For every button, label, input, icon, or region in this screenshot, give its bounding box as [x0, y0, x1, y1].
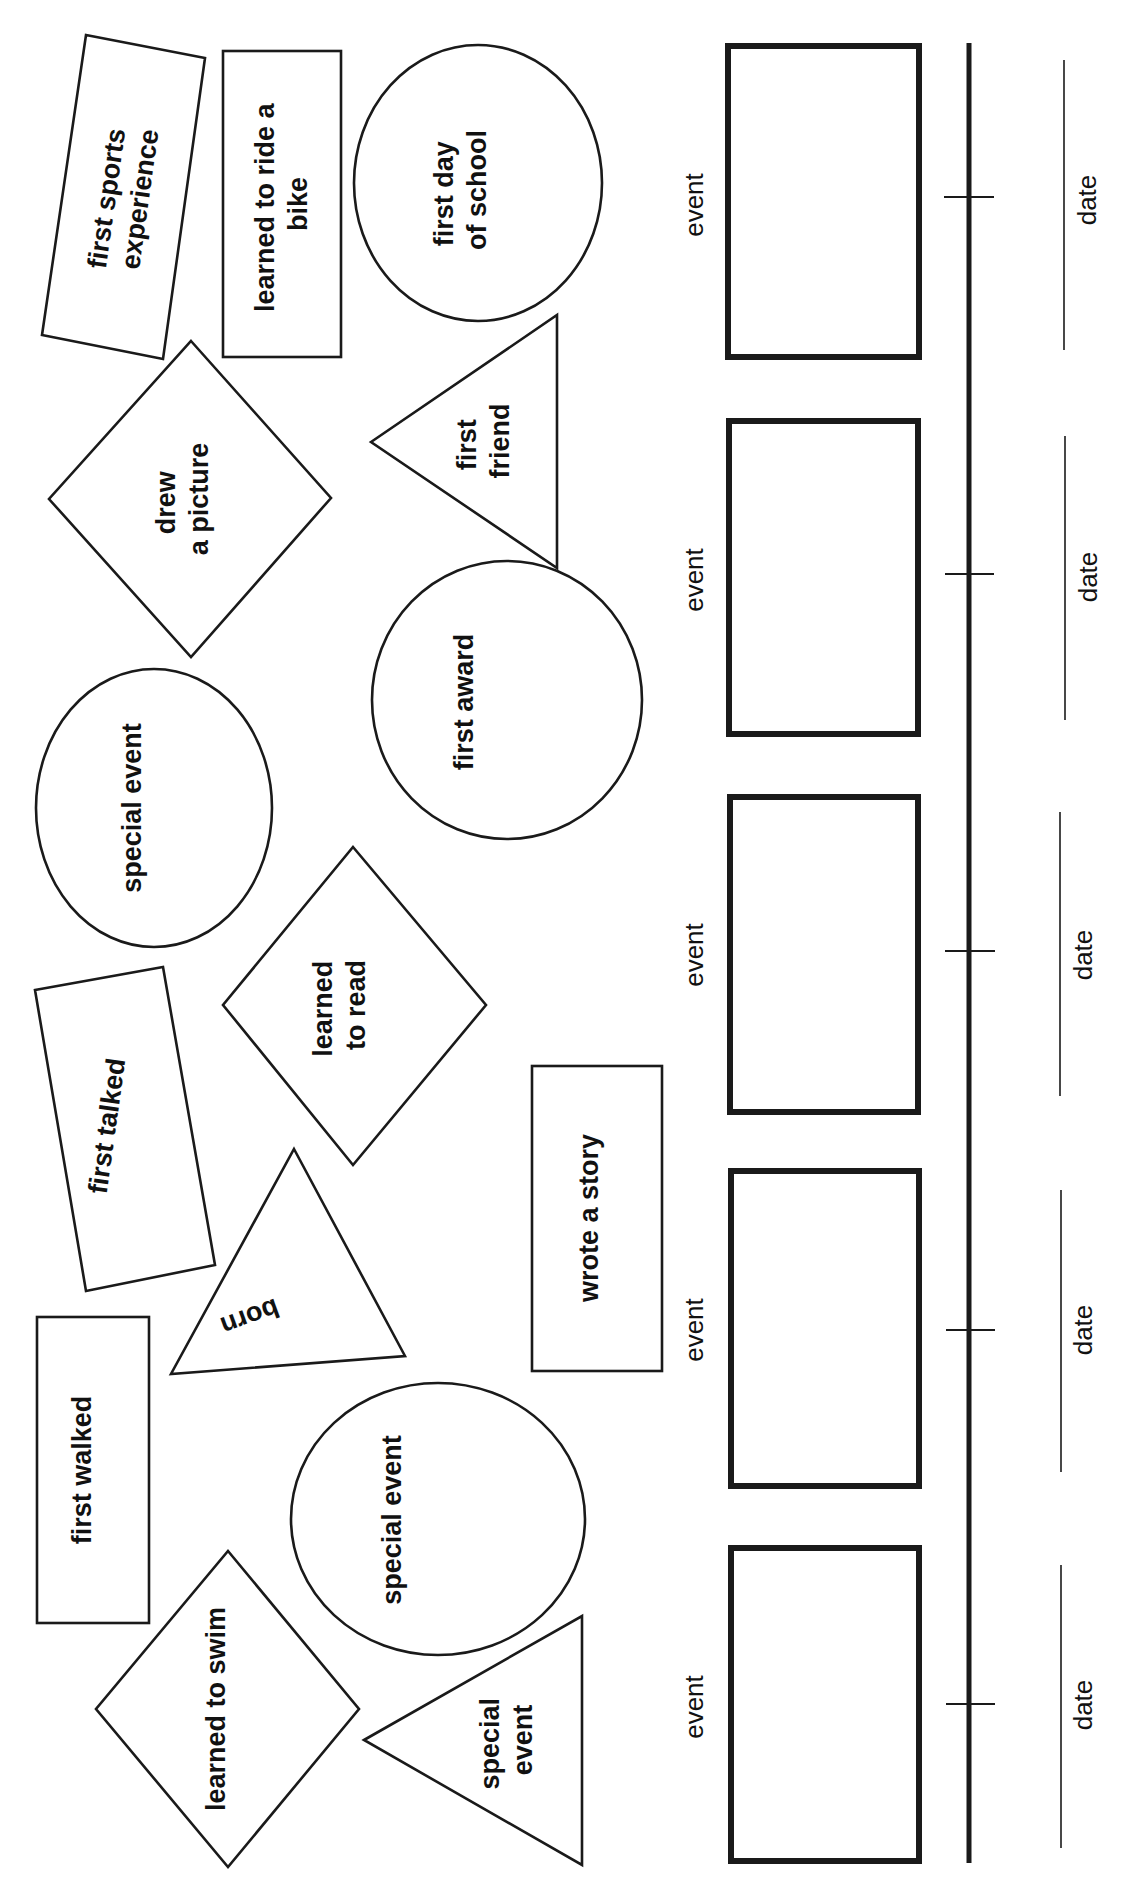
cutout-learned-to-read[interactable]: learned to read: [223, 847, 486, 1165]
rectangle-shape: [35, 967, 215, 1291]
event-label: event: [679, 1297, 709, 1361]
timeline-slot: event date: [679, 797, 1098, 1112]
svg-text:special event: special event: [377, 1435, 407, 1605]
cutout-first-award[interactable]: first award: [372, 561, 642, 839]
svg-text:wrote a story: wrote a story: [574, 1134, 604, 1303]
timeline: event date event date event date event: [679, 43, 1103, 1863]
cutout-label: learned: [308, 961, 338, 1057]
event-box[interactable]: [729, 421, 918, 734]
cutout-special-event-1[interactable]: special event: [36, 669, 272, 947]
cutout-label: friend: [485, 403, 515, 478]
date-label: date: [1068, 1680, 1098, 1731]
event-box[interactable]: [731, 1548, 919, 1861]
svg-text:learned to swim: learned to swim: [201, 1607, 231, 1811]
event-box[interactable]: [730, 797, 918, 1112]
event-box[interactable]: [728, 46, 919, 357]
cutout-special-event-2[interactable]: special event: [291, 1383, 585, 1655]
date-label: date: [1068, 1305, 1098, 1356]
cutout-label: first: [452, 419, 482, 470]
timeline-slot: event date: [679, 421, 1103, 734]
cutout-first-walked[interactable]: first walked: [37, 1317, 149, 1623]
cutout-label: learned to ride a: [250, 102, 280, 312]
cutout-wrote-a-story[interactable]: wrote a story: [532, 1066, 662, 1371]
cutout-label: learned to swim: [201, 1607, 231, 1811]
cutout-label: bike: [283, 177, 313, 231]
cutout-label: event: [508, 1705, 538, 1776]
cutout-first-friend[interactable]: first friend: [371, 315, 557, 568]
cutout-label: first walked: [67, 1396, 97, 1545]
circle-shape: [36, 669, 272, 947]
timeline-worksheet: first sports experience learned to ride …: [0, 0, 1131, 1891]
cutout-label: of school: [462, 130, 492, 250]
svg-text:special event: special event: [117, 723, 147, 893]
cutout-label: wrote a story: [574, 1134, 604, 1303]
triangle-shape: [364, 1616, 582, 1865]
circle-shape: [291, 1383, 585, 1655]
cutout-first-sports-experience[interactable]: first sports experience: [42, 35, 205, 359]
date-label: date: [1073, 552, 1103, 603]
cutout-drew-a-picture[interactable]: drew a picture: [49, 341, 331, 657]
timeline-slot: event date: [679, 1548, 1098, 1861]
rectangle-shape: [223, 51, 341, 357]
timeline-slot: event date: [679, 46, 1102, 357]
cutout-label: drew: [151, 470, 181, 534]
cutout-label: first day: [429, 141, 459, 246]
cutout-label: to read: [341, 960, 371, 1050]
cutout-label: a picture: [184, 443, 214, 556]
event-label: event: [679, 1674, 709, 1738]
cutout-first-talked[interactable]: first talked: [35, 967, 215, 1291]
svg-text:first award: first award: [449, 634, 479, 771]
date-label: date: [1068, 930, 1098, 981]
cutout-label: first award: [449, 634, 479, 771]
event-label: event: [679, 172, 709, 236]
circle-shape: [372, 561, 642, 839]
svg-text:first walked: first walked: [67, 1396, 97, 1545]
event-box[interactable]: [731, 1171, 919, 1486]
cutout-special-event-3[interactable]: special event: [364, 1616, 582, 1865]
rectangle-shape: [42, 35, 205, 359]
cutout-label: special event: [117, 723, 147, 893]
timeline-slot: event date: [679, 1171, 1098, 1486]
event-label: event: [679, 547, 709, 611]
cutout-first-day-of-school[interactable]: first day of school: [354, 45, 602, 321]
date-label: date: [1072, 175, 1102, 226]
cutout-learned-to-ride-a-bike[interactable]: learned to ride a bike: [223, 51, 341, 357]
event-label: event: [679, 922, 709, 986]
cutout-label: special: [475, 1698, 505, 1790]
cutout-label: special event: [377, 1435, 407, 1605]
